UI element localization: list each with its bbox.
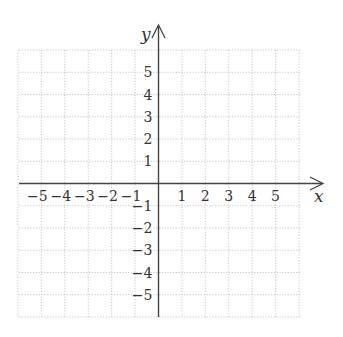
x-tick-label: −4 [51,188,72,204]
x-tick-label: 4 [248,188,257,204]
x-tick-label: 3 [224,188,233,204]
x-tick-labels: −5−4−3−2−112345 [27,188,280,204]
y-tick-label: −5 [132,287,153,303]
y-tick-label: −1 [132,198,153,214]
y-tick-label: −2 [132,220,153,236]
y-tick-label: 1 [144,153,153,169]
x-tick-label: 2 [201,188,210,204]
x-tick-label: −2 [97,188,118,204]
y-tick-label: 4 [144,87,153,103]
coordinate-plane: x y −5−4−3−2−112345 54321−1−2−3−4−5 [0,0,343,337]
x-tick-label: 1 [177,188,186,204]
x-tick-label: −3 [74,188,95,204]
x-axis-label: x [314,186,324,206]
y-tick-label: 3 [144,109,153,125]
y-axis-label: y [140,24,151,44]
x-tick-label: −5 [27,188,48,204]
y-tick-label: −3 [132,242,153,258]
y-tick-label: −4 [132,265,153,281]
y-tick-label: 5 [144,64,153,80]
x-tick-label: 5 [271,188,280,204]
y-tick-label: 2 [144,131,153,147]
